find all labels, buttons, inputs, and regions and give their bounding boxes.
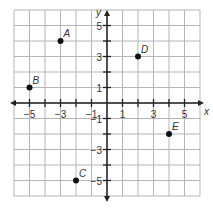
point-c: C xyxy=(73,168,87,184)
x-tick-label: −3 xyxy=(55,109,67,120)
x-tick-label: 1 xyxy=(120,109,126,120)
point-label: D xyxy=(141,44,148,55)
point-d: D xyxy=(135,44,148,60)
y-tick-label: 5 xyxy=(96,21,102,32)
point-b: B xyxy=(27,75,40,91)
x-axis-left-arrow-icon xyxy=(10,100,16,106)
y-tick-label: −3 xyxy=(91,145,103,156)
y-tick-label: −5 xyxy=(91,176,103,187)
y-tick-label: 1 xyxy=(96,83,102,94)
point-label: E xyxy=(172,121,179,132)
y-axis-down-arrow-icon xyxy=(104,196,110,202)
point-label: B xyxy=(33,75,40,86)
y-axis-label: y xyxy=(95,7,102,18)
y-tick-label: −1 xyxy=(91,114,103,125)
x-tick-label: −5 xyxy=(24,109,36,120)
point-label: C xyxy=(79,168,87,179)
point-e: E xyxy=(166,121,179,137)
point-a: A xyxy=(58,28,71,44)
axes: −5−3−1135531−1−3−5xy xyxy=(10,7,210,202)
coordinate-plane: −5−3−1135531−1−3−5xyABCDE xyxy=(0,0,213,213)
y-axis-up-arrow-icon xyxy=(104,10,110,16)
x-tick-label: 3 xyxy=(151,109,157,120)
x-axis-label: x xyxy=(203,106,210,117)
points: ABCDE xyxy=(27,28,180,184)
y-tick-label: 3 xyxy=(96,52,102,63)
x-tick-label: 5 xyxy=(182,109,188,120)
point-label: A xyxy=(63,28,71,39)
